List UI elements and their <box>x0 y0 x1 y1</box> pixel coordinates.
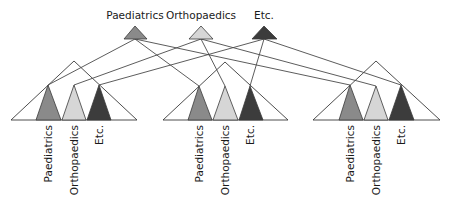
top-orthopaedics-triangle <box>189 26 213 39</box>
top-label-etc: Etc. <box>254 9 274 21</box>
middle-label-etc: Etc. <box>244 125 256 145</box>
left-label-orthopaedics: Orthopaedics <box>68 125 80 195</box>
top-paediatrics-triangle <box>124 26 147 39</box>
middle-label-paediatrics: Paediatrics <box>193 125 205 182</box>
specialty-hierarchy-diagram: Paediatrics Orthopaedics Etc. Paediatric… <box>0 0 452 201</box>
middle-label-orthopaedics: Orthopaedics <box>219 125 231 195</box>
link-etc-right <box>264 39 401 85</box>
top-label-paediatrics: Paediatrics <box>106 9 163 21</box>
right-label-etc: Etc. <box>395 125 407 145</box>
left-label-paediatrics: Paediatrics <box>42 125 54 182</box>
top-etc-triangle <box>252 26 277 39</box>
left-label-etc: Etc. <box>93 125 105 145</box>
top-label-orthopaedics: Orthopaedics <box>166 9 236 21</box>
link-etc-middle <box>250 39 264 86</box>
right-label-orthopaedics: Orthopaedics <box>370 125 382 195</box>
right-label-paediatrics: Paediatrics <box>344 125 356 182</box>
